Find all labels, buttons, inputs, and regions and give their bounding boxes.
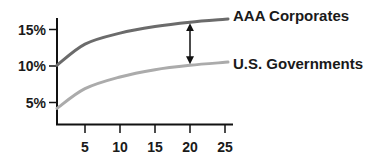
y-ticks: 5%10%15% <box>18 22 57 111</box>
us-governments-line <box>57 62 228 108</box>
x-tick-label: 10 <box>112 139 128 155</box>
x-tick-label: 5 <box>81 139 89 155</box>
series-lines <box>57 19 228 108</box>
x-tick-label: 20 <box>182 139 198 155</box>
x-tick-label: 15 <box>147 139 163 155</box>
series-label-us-governments: U.S. Governments <box>233 55 363 72</box>
x-tick-label: 25 <box>217 139 233 155</box>
x-ticks: 510152025 <box>81 125 233 155</box>
aaa-corporates-line <box>57 19 228 65</box>
y-tick-label: 10% <box>18 58 47 74</box>
y-tick-label: 15% <box>18 22 47 38</box>
series-label-aaa-corporates: AAA Corporates <box>233 7 349 24</box>
y-tick-label: 5% <box>26 95 47 111</box>
yield-spread-chart: 5%10%15% 510152025 AAA Corporates U.S. G… <box>0 0 373 166</box>
